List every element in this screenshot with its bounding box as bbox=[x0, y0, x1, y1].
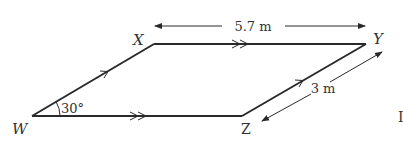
top-dimension-label: 5.7 m bbox=[234, 19, 271, 34]
vertex-label-x: X bbox=[132, 31, 145, 49]
side-dimension-label: 3 m bbox=[311, 81, 336, 96]
parallelogram-diagram: 30° 5.7 m 3 m X Y W Z I bbox=[0, 0, 403, 142]
edge-yz bbox=[242, 44, 366, 116]
vertex-label-y: Y bbox=[373, 30, 385, 48]
vertex-label-z: Z bbox=[241, 121, 251, 137]
cropped-text-fragment: I bbox=[398, 109, 403, 125]
vertex-label-w: W bbox=[12, 120, 29, 138]
edge-wx bbox=[32, 44, 154, 116]
angle-label: 30° bbox=[61, 101, 84, 116]
angle-arc bbox=[56, 102, 60, 117]
